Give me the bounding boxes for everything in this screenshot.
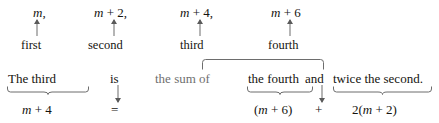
- underbrace-the-fourth: [247, 86, 313, 95]
- sentence-part-is: is: [110, 72, 119, 85]
- sentence-part-twice-the-second: twice the second.: [333, 72, 423, 85]
- ordinal-second: second: [88, 39, 123, 52]
- ordinal-first: first: [21, 39, 41, 52]
- up-arrow-fourth: [286, 20, 293, 36]
- equation-part-m-plus-4: m + 4: [22, 103, 52, 116]
- arrow-head: [34, 19, 40, 24]
- arrow-head: [111, 19, 117, 24]
- underbrace-twice-the-second: [333, 86, 432, 95]
- sentence-part-the-third: The third: [8, 72, 56, 85]
- expression-first: m,: [33, 6, 46, 19]
- expression-fourth: m + 6: [271, 6, 301, 19]
- equation-part-plus: +: [315, 103, 322, 116]
- equation-part-equals: =: [111, 103, 118, 116]
- arrow-head: [197, 19, 203, 24]
- up-arrow-second: [110, 20, 117, 36]
- up-arrow-third: [196, 20, 203, 36]
- down-arrow-is-equals: [114, 85, 121, 102]
- underbrace-the-third: [7, 86, 89, 95]
- up-arrow-first: [33, 20, 40, 36]
- down-arrow-and-plus: [318, 85, 325, 102]
- ordinal-third: third: [180, 39, 204, 52]
- arrow-head: [287, 19, 293, 24]
- sentence-part-the-sum-of: the sum of: [155, 72, 210, 85]
- expression-third: m + 4,: [180, 6, 213, 19]
- ordinal-fourth: fourth: [268, 39, 299, 52]
- sentence-part-the-fourth: the fourth: [248, 72, 299, 85]
- sum-of-bracket: [202, 59, 324, 70]
- equation-part-2-m-plus-2: 2(m + 2): [352, 103, 397, 116]
- sentence-part-and: and: [305, 72, 324, 85]
- algebra-translation-figure: m, m + 2, m + 4, m + 6 first second thir…: [0, 0, 439, 123]
- expression-second: m + 2,: [94, 6, 127, 19]
- equation-part-m-plus-6: (m + 6): [254, 103, 292, 116]
